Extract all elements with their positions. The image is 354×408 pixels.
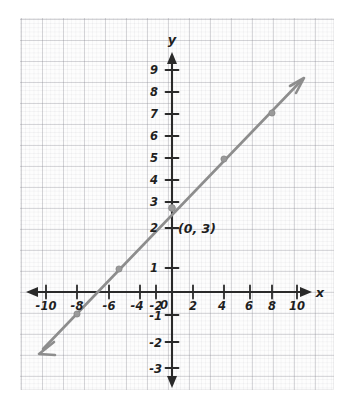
y-axis-label: y	[168, 32, 177, 47]
y-tick-label-4: 4	[149, 173, 158, 187]
y-tick-label--3: -3	[149, 362, 162, 376]
y-tick-label--1: -1	[149, 309, 162, 323]
x-tick-label-10: 10	[289, 299, 305, 313]
y-tick-label-7: 7	[150, 107, 158, 121]
x-tick-label--10: -10	[36, 299, 57, 313]
x-axis-label: x	[315, 285, 325, 300]
x-tick-label--6: -6	[103, 299, 116, 313]
y-tick-label--2: -2	[149, 336, 162, 350]
data-point-8-7	[269, 110, 275, 116]
x-tick-label-6: 6	[245, 299, 253, 313]
graph-canvas: -10 -8 -6 -4 -2 0 2 4 6 8 10 9 8 7 6 5 4…	[0, 0, 354, 408]
x-tick-label-8: 8	[268, 299, 276, 313]
coordinate-plane-plot: -10 -8 -6 -4 -2 0 2 4 6 8 10 9 8 7 6 5 4…	[0, 0, 354, 408]
data-point--4-1	[116, 266, 122, 272]
x-tick-label--8: -8	[71, 299, 84, 313]
y-tick-label-1: 1	[150, 261, 158, 275]
y-tick-label-5: 5	[150, 151, 158, 165]
y-tick-label-2: 2	[150, 221, 158, 235]
x-tick-labels: -10 -8 -6 -4 -2 0 2 4 6 8 10	[36, 298, 305, 313]
x-axis-group	[26, 287, 312, 297]
x-tick-label--4: -4	[131, 299, 144, 313]
x-tick-label-2: 2	[189, 299, 197, 313]
y-tick-label-9: 9	[150, 63, 158, 77]
x-axis-arrow-right	[300, 287, 312, 297]
point-annotation-0-3: (0, 3)	[178, 221, 216, 236]
data-point-0-3	[169, 205, 176, 212]
y-axis-arrow-down	[167, 376, 177, 388]
y-tick-label-6: 6	[150, 129, 158, 143]
y-tick-label-8: 8	[150, 85, 158, 99]
x-tick-label-4: 4	[217, 299, 226, 313]
y-tick-label-3: 3	[150, 195, 158, 209]
y-tick-labels: 9 8 7 6 5 4 3 2 1 -1 -2 -3	[149, 63, 162, 376]
x-axis-arrow-left	[26, 287, 38, 297]
y-axis-arrow-up	[167, 52, 177, 64]
data-point-4-5	[221, 156, 227, 162]
